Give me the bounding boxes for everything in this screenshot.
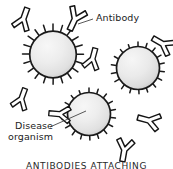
antibody-attached-top-center: [61, 4, 89, 34]
antibody-free-left-lower: [9, 85, 33, 112]
cell-body: [117, 47, 160, 90]
figure-caption: ANTIBODIES ATTACHING: [0, 161, 173, 169]
antibody-free-top-left: [11, 5, 36, 33]
disease-organism-right: [111, 42, 164, 94]
antibody-illustration-figure: Antibody Disease organism ANTIBODIES ATT…: [0, 0, 173, 169]
antibody-free-bottom-right-upper: [135, 109, 162, 133]
disease-organism-bottom-center: [62, 88, 115, 140]
disease-organism-top-left: [23, 24, 84, 84]
antibody-free-bottom-right-lower: [113, 137, 135, 163]
cell-body: [68, 93, 111, 136]
cell-body: [30, 31, 77, 78]
label-disease-organism-line1: Disease: [15, 121, 53, 132]
label-antibody: Antibody: [96, 13, 139, 24]
label-disease-organism-line2: organism: [8, 132, 53, 143]
antibody-free-center: [81, 46, 104, 72]
illustration-canvas: [0, 0, 173, 169]
